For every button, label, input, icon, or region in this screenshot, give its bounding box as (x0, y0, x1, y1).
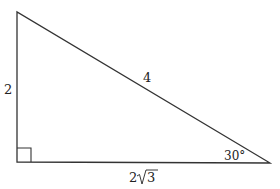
triangle-diagram: 2 4 30° 2 3 (0, 0, 280, 189)
triangle (17, 12, 270, 163)
right-angle-marker (17, 148, 31, 162)
angle-label: 30° (224, 149, 245, 163)
base-label-radicand: 3 (147, 170, 155, 185)
hypotenuse-label: 4 (143, 70, 151, 85)
left-side-label: 2 (4, 82, 12, 97)
base-label: 2 3 (129, 170, 158, 185)
base-label-coefficient: 2 (129, 170, 137, 185)
